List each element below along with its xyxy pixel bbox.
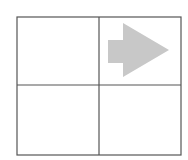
right-arrow-icon	[108, 23, 169, 77]
grid-diagram	[0, 0, 188, 160]
